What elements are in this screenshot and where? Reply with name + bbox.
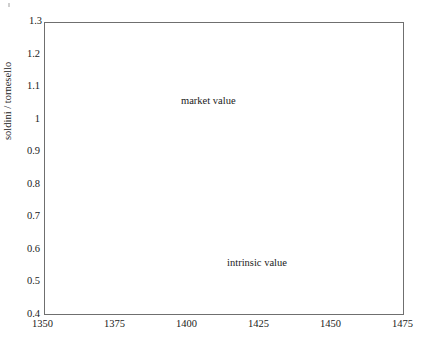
scan-artifact-speck [8,3,10,7]
intrinsic-value-label: intrinsic value [227,257,287,268]
y-tick-label: 0.8 [18,178,40,189]
y-tick-label: 1 [18,113,40,124]
chart-figure: soldini / tornesello 1350137514001425145… [0,0,427,350]
y-tick-label: 0.7 [18,210,40,221]
y-tick-label: 0.9 [18,145,40,156]
x-tick-label: 1475 [392,318,413,329]
market-value-label: market value [181,95,236,106]
plot-area [44,22,404,315]
x-tick-label: 1450 [320,318,341,329]
y-axis-label: soldini / tornesello [2,126,13,140]
y-tick-label: 1.1 [18,80,40,91]
y-tick-label: 0.4 [18,308,40,319]
x-tick-label: 1425 [248,318,269,329]
y-tick-label: 0.5 [18,275,40,286]
y-tick-label: 1.2 [18,48,40,59]
x-tick-label: 1375 [104,318,125,329]
x-tick-label: 1350 [32,318,53,329]
y-tick-label: 0.6 [18,243,40,254]
y-tick-label: 1.3 [20,15,42,26]
x-tick-label: 1400 [176,318,197,329]
